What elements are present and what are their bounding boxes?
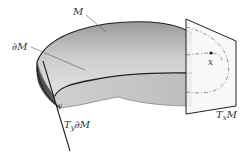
label-boundary: ∂M (12, 41, 28, 52)
label-tangent-boundary-y-tail: ∂M (75, 119, 91, 130)
point-x-marker (209, 51, 212, 54)
manifold-with-boundary-diagram: M ∂M x y TxM Ty∂M (0, 0, 251, 157)
label-x: x (208, 57, 213, 67)
label-tangent-space-x-tail: M (226, 109, 238, 120)
label-tangent-boundary-y: Ty∂M (64, 119, 91, 132)
label-tangent-space-x: TxM (216, 109, 238, 122)
label-M: M (72, 6, 84, 17)
